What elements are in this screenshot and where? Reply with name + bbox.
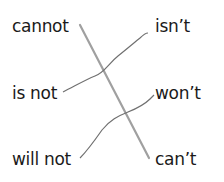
match-lines — [0, 0, 224, 182]
line-cannot-cant — [80, 25, 149, 158]
line-isnot-isnt — [63, 33, 148, 92]
